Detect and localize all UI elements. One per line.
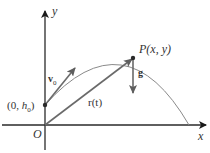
start-point [43, 103, 47, 107]
start-point-label-prefix: (0, [7, 99, 22, 111]
initial-velocity-label: v0 [48, 74, 57, 87]
point-p [131, 56, 135, 60]
origin-label: O [33, 128, 42, 140]
initial-velocity-subscript: 0 [53, 79, 57, 87]
gravity-label: g [138, 68, 143, 78]
position-vector-label: r(t) [88, 97, 102, 108]
x-axis-label: x [198, 130, 203, 142]
projectile-diagram: y x O (0, h0) P(x, y) v0 r(t) g [0, 0, 210, 153]
start-point-label-suffix: ) [31, 99, 35, 111]
trajectory-curve [45, 65, 189, 126]
diagram-canvas [0, 0, 210, 153]
start-point-label: (0, h0) [7, 100, 34, 114]
y-axis-label: y [52, 5, 57, 17]
point-p-label: P(x, y) [139, 43, 171, 55]
